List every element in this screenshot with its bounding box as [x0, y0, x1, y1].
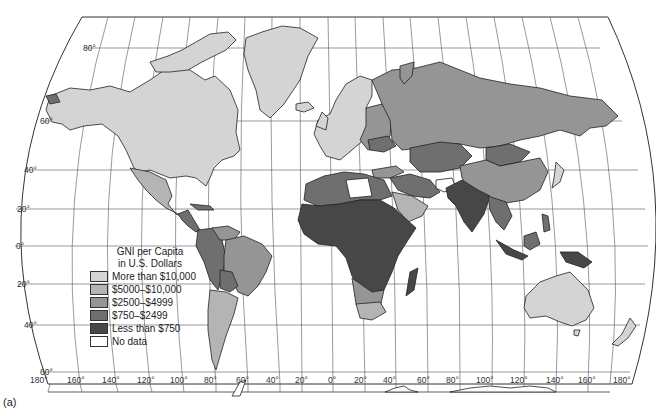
legend-label: Less than $750	[112, 323, 180, 334]
svg-text:180°: 180°	[30, 375, 48, 385]
svg-text:80°: 80°	[446, 375, 459, 385]
svg-text:0°: 0°	[328, 375, 336, 385]
map-legend: GNI per Capita in U.S. Dollars More than…	[90, 246, 260, 348]
legend-item: $2500–$4999	[90, 296, 260, 309]
legend-item: No data	[90, 335, 260, 348]
svg-text:100°: 100°	[170, 375, 188, 385]
svg-text:160°: 160°	[67, 375, 85, 385]
svg-text:20°: 20°	[17, 204, 30, 214]
svg-text:80°: 80°	[83, 43, 96, 53]
svg-text:160°: 160°	[578, 375, 596, 385]
svg-text:140°: 140°	[102, 375, 120, 385]
svg-text:60°: 60°	[417, 375, 430, 385]
legend-label: $750–$2499	[112, 310, 168, 321]
region-antarctica-1	[385, 386, 418, 392]
legend-label: $2500–$4999	[112, 297, 173, 308]
svg-text:60°: 60°	[236, 375, 249, 385]
svg-text:140°: 140°	[546, 375, 564, 385]
svg-text:40°: 40°	[24, 165, 37, 175]
svg-text:60°: 60°	[40, 116, 53, 126]
world-map: 80° 60° 40° 20° 0° 20° 40° 60° 180° 160°…	[0, 0, 656, 416]
legend-title-line1: GNI per Capita	[90, 246, 210, 258]
svg-text:100°: 100°	[476, 375, 494, 385]
legend-label: No data	[112, 336, 147, 347]
svg-text:20°: 20°	[17, 279, 30, 289]
legend-swatch	[90, 310, 108, 321]
legend-label: $5000–$10,000	[112, 284, 182, 295]
region-antarctica-2	[450, 386, 556, 392]
panel-label: (a)	[3, 396, 16, 408]
svg-text:40°: 40°	[266, 375, 279, 385]
svg-text:120°: 120°	[510, 375, 528, 385]
svg-text:20°: 20°	[295, 375, 308, 385]
region-libya	[346, 178, 372, 198]
svg-text:120°: 120°	[137, 375, 155, 385]
legend-item: Less than $750	[90, 322, 260, 335]
legend-item: $750–$2499	[90, 309, 260, 322]
svg-text:40°: 40°	[383, 375, 396, 385]
svg-text:20°: 20°	[354, 375, 367, 385]
legend-item: More than $10,000	[90, 270, 260, 283]
legend-swatch	[90, 271, 108, 282]
svg-text:80°: 80°	[204, 375, 217, 385]
svg-text:40°: 40°	[24, 320, 37, 330]
legend-swatch	[90, 336, 108, 347]
legend-label: More than $10,000	[112, 271, 196, 282]
legend-title-line2: in U.S. Dollars	[90, 258, 210, 270]
legend-swatch	[90, 297, 108, 308]
legend-swatch	[90, 323, 108, 334]
legend-item: $5000–$10,000	[90, 283, 260, 296]
svg-text:180°: 180°	[613, 375, 631, 385]
svg-text:0°: 0°	[16, 241, 24, 251]
legend-swatch	[90, 284, 108, 295]
